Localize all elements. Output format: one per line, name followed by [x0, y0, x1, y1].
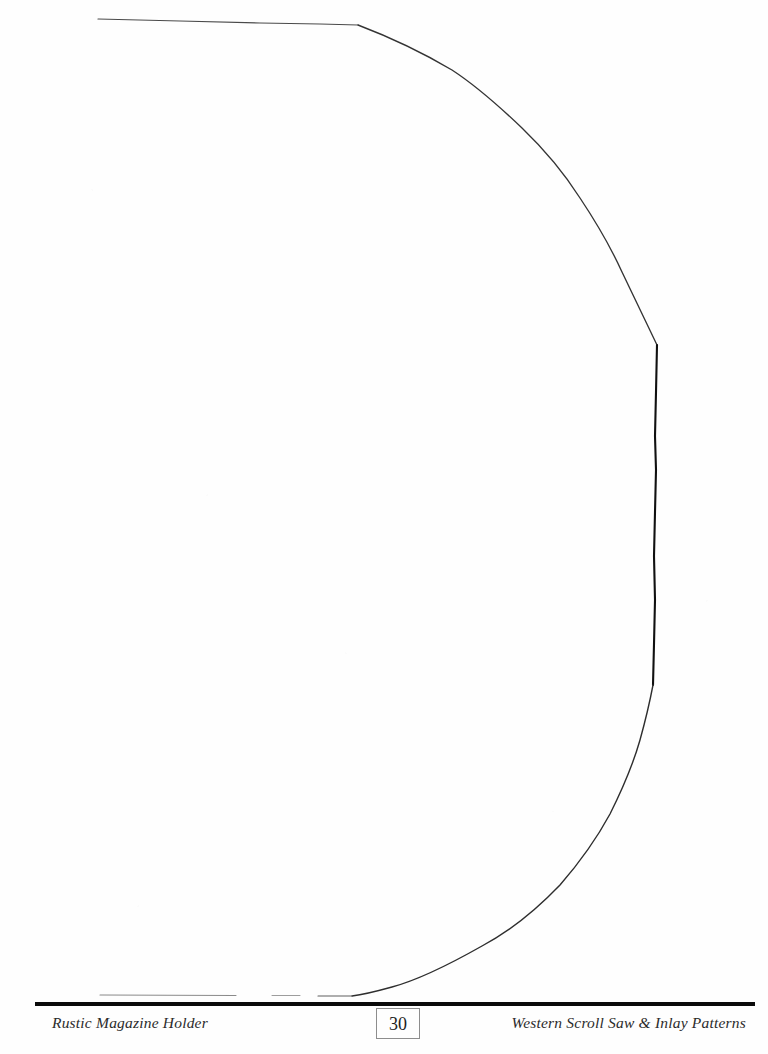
- pattern-bottom-edge-group: [100, 995, 352, 996]
- page-sheet: Rustic Magazine Holder 30 Western Scroll…: [0, 0, 768, 1054]
- pattern-top-edge: [98, 19, 358, 25]
- pattern-outline-drawing: [0, 0, 768, 1054]
- page-number-label: 30: [389, 1015, 407, 1033]
- page-number-box: 30: [376, 1008, 420, 1039]
- footer-project-title: Rustic Magazine Holder: [52, 1014, 208, 1032]
- pattern-bottom-edge-left-fragment: [100, 995, 236, 996]
- pattern-upper-right-sweep: [358, 25, 657, 345]
- footer-content-row: Rustic Magazine Holder 30 Western Scroll…: [0, 1008, 768, 1048]
- page-footer: Rustic Magazine Holder 30 Western Scroll…: [0, 1000, 768, 1054]
- pattern-right-vertical-edge: [653, 345, 657, 685]
- pattern-lower-right-sweep: [352, 685, 653, 996]
- footer-horizontal-rule: [35, 1002, 755, 1006]
- footer-book-title: Western Scroll Saw & Inlay Patterns: [512, 1014, 746, 1032]
